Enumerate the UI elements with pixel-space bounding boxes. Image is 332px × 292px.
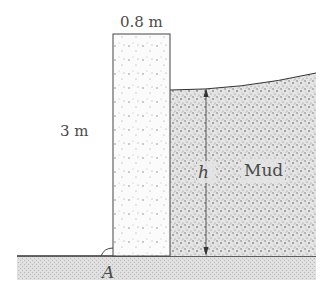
wall-height-label: 3 m	[60, 124, 89, 139]
retaining-wall-diagram: 0.8 m 3 m h Mud A	[0, 0, 332, 292]
ground	[17, 256, 316, 280]
diagram-graphic	[0, 0, 332, 292]
wall-width-label: 0.8 m	[120, 15, 163, 30]
mud-depth-label: h	[198, 164, 209, 181]
pivot-arc	[101, 248, 113, 256]
mud-label: Mud	[244, 162, 283, 179]
pivot-point-label: A	[102, 264, 114, 281]
wall	[113, 34, 170, 256]
